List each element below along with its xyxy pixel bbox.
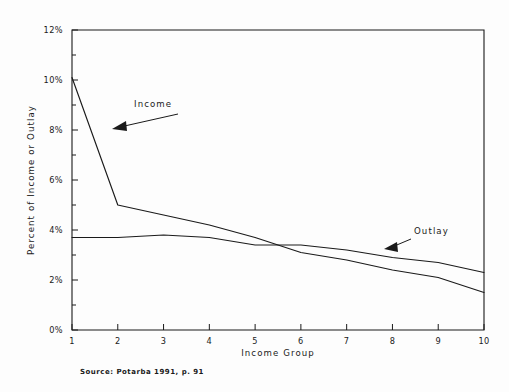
income-annotation-label: Income	[134, 99, 172, 109]
x-tick-label: 8	[390, 336, 396, 346]
x-tick-label: 1	[69, 336, 75, 346]
outlay-annotation-label: Outlay	[414, 226, 449, 236]
income-arrow-line	[120, 114, 178, 127]
series-line-outlay	[72, 235, 484, 273]
y-tick-label: 0%	[49, 325, 63, 335]
x-axis-tick-labels: 12345678910	[69, 336, 489, 346]
y-tick-label: 4%	[49, 225, 63, 235]
plot-frame	[72, 30, 484, 330]
x-tick-label: 3	[161, 336, 167, 346]
x-axis-title: Income Group	[241, 348, 315, 358]
y-axis-tick-labels: 0%2%4%6%8%10%12%	[44, 25, 63, 335]
x-tick-label: 6	[298, 336, 304, 346]
x-tick-label: 4	[207, 336, 213, 346]
y-axis-ticks	[72, 30, 78, 330]
y-tick-label: 12%	[44, 25, 63, 35]
y-tick-label: 2%	[49, 275, 63, 285]
y-tick-label: 10%	[44, 75, 63, 85]
annotation-outlay: Outlay	[384, 226, 449, 252]
x-axis-ticks	[72, 324, 484, 330]
x-tick-label: 9	[435, 336, 441, 346]
series-group	[72, 78, 484, 293]
x-tick-label: 2	[115, 336, 121, 346]
x-tick-label: 5	[252, 336, 258, 346]
x-tick-label: 7	[344, 336, 350, 346]
source-note: Source: Potarba 1991, p. 91	[80, 368, 204, 376]
annotation-income: Income	[112, 99, 178, 131]
chart-figure: 0%2%4%6%8%10%12% 12345678910 Percent of …	[0, 0, 509, 392]
y-tick-label: 6%	[49, 175, 63, 185]
y-tick-label: 8%	[49, 125, 63, 135]
y-axis-title: Percent of Income or Outlay	[26, 105, 36, 255]
outlay-arrow-head	[384, 242, 398, 252]
income-arrow-head	[112, 121, 127, 131]
x-tick-label: 10	[478, 336, 489, 346]
line-chart: 0%2%4%6%8%10%12% 12345678910 Percent of …	[0, 0, 509, 392]
